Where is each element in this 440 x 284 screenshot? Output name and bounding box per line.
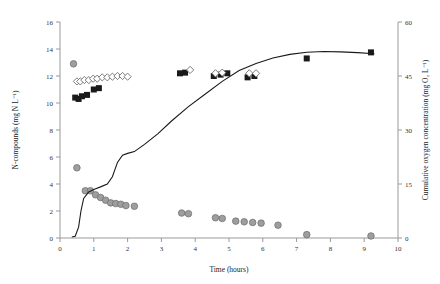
y-axis-label-left: N-compounds (mg N L⁻¹)	[11, 90, 20, 169]
marker-circle	[232, 218, 239, 225]
x-tick-label: 3	[160, 245, 164, 253]
x-tick-label: 8	[329, 245, 333, 253]
y-axis-label-right: Cumulative oxygen concentration (mg O₂ L…	[421, 59, 430, 200]
y-tick-label-right: 45	[405, 73, 413, 81]
x-tick-label: 0	[58, 245, 62, 253]
y-tick-label-left: 0	[50, 235, 54, 243]
y-tick-label-left: 16	[46, 19, 54, 27]
y-tick-label-left: 14	[46, 46, 54, 54]
marker-circle	[74, 165, 81, 172]
x-tick-label: 10	[395, 245, 403, 253]
y-tick-label-left: 8	[50, 127, 54, 135]
x-tick-label: 5	[227, 245, 231, 253]
y-tick-label-right: 30	[405, 127, 413, 135]
marker-circle	[178, 210, 185, 217]
chart-container: 0246810121416015304560012345678910Time (…	[0, 0, 440, 284]
y-tick-label-left: 4	[50, 181, 54, 189]
marker-circle	[241, 219, 248, 226]
y-tick-label-left: 6	[50, 154, 54, 162]
marker-circle	[303, 231, 310, 238]
y-tick-label-left: 10	[46, 100, 54, 108]
marker-diamond	[124, 73, 131, 80]
y-tick-label-right: 0	[405, 235, 409, 243]
x-tick-label: 9	[362, 245, 366, 253]
x-tick-label: 4	[193, 245, 197, 253]
marker-square	[304, 55, 310, 61]
scatter-chart: 0246810121416015304560012345678910Time (…	[0, 0, 440, 284]
marker-square	[84, 92, 90, 98]
marker-circle	[275, 222, 282, 229]
marker-circle	[219, 215, 226, 222]
x-tick-label: 1	[92, 245, 96, 253]
marker-circle	[123, 202, 130, 209]
marker-circle	[131, 203, 138, 210]
x-axis-label: Time (hours)	[209, 265, 249, 274]
x-tick-label: 2	[126, 245, 130, 253]
y-tick-label-right: 15	[405, 181, 413, 189]
marker-circle	[70, 61, 77, 68]
x-tick-label: 7	[295, 245, 299, 253]
marker-circle	[368, 233, 375, 240]
y-tick-label-left: 12	[46, 73, 54, 81]
marker-circle	[185, 210, 192, 217]
marker-circle	[212, 214, 219, 221]
marker-circle	[258, 220, 265, 227]
y-tick-label-left: 2	[50, 208, 54, 216]
marker-circle	[249, 219, 256, 226]
marker-square	[368, 49, 374, 55]
x-tick-label: 6	[261, 245, 265, 253]
y-tick-label-right: 60	[405, 19, 413, 27]
marker-square	[96, 85, 102, 91]
